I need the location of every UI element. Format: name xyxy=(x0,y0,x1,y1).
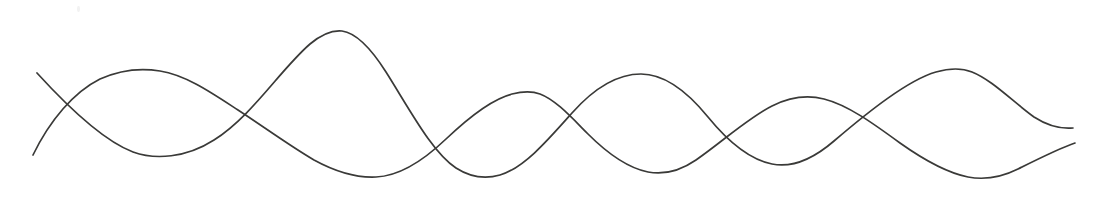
wave-chart-canvas xyxy=(0,0,1109,201)
figure-root xyxy=(0,0,1109,201)
chart-background xyxy=(0,0,1109,201)
